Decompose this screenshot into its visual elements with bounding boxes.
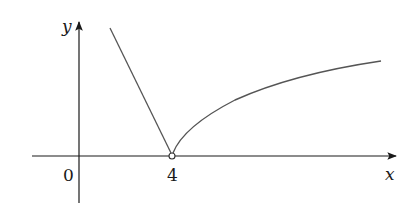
x-axis-label: x [385, 164, 395, 184]
right-sqrt-branch [173, 61, 381, 153]
left-linear-branch [110, 28, 171, 153]
graph: y x 0 4 [0, 0, 417, 210]
open-circle-hole [169, 153, 175, 159]
y-axis-label: y [61, 16, 72, 36]
origin-label: 0 [63, 165, 74, 185]
tick-label-4: 4 [167, 165, 178, 185]
